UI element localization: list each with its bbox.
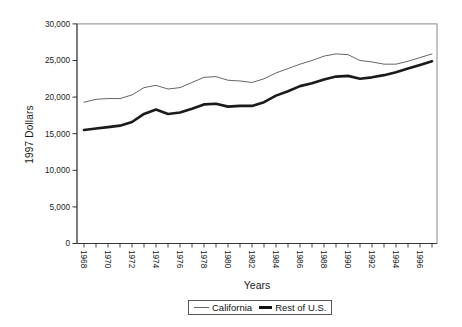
x-tick-label: 1976 [175, 250, 184, 269]
x-tick-label: 1974 [151, 250, 160, 269]
rest-of-us-line [84, 61, 432, 130]
x-tick-label: 1994 [391, 250, 400, 269]
x-tick-label: 1982 [247, 250, 256, 269]
legend-item-california: California [194, 303, 252, 313]
y-tick-label: 15,000 [45, 130, 70, 139]
legend-item-rest-of-us: Rest of U.S. [259, 303, 326, 313]
y-tick-label: 0 [65, 239, 70, 248]
y-tick-label: 5,000 [50, 203, 71, 212]
income-line-chart-figure: 05,00010,00015,00020,00025,00030,0001968… [0, 0, 462, 327]
y-tick-label: 20,000 [45, 93, 70, 102]
legend: California Rest of U.S. [188, 300, 332, 315]
rest-of-us-line-swatch [259, 306, 272, 309]
y-tick-label: 10,000 [45, 166, 70, 175]
x-tick-label: 1988 [319, 250, 328, 269]
x-tick-label: 1992 [367, 250, 376, 269]
x-tick-label: 1968 [79, 250, 88, 269]
x-tick-label: 1986 [295, 250, 304, 269]
california-line [84, 54, 432, 102]
y-tick-label: 25,000 [45, 56, 70, 65]
x-axis-title: Years [227, 279, 287, 291]
x-tick-label: 1970 [103, 250, 112, 269]
x-tick-label: 1972 [127, 250, 136, 269]
y-tick-label: 30,000 [45, 20, 70, 29]
legend-label-california: California [212, 303, 252, 313]
x-tick-label: 1980 [223, 250, 232, 269]
x-tick-label: 1978 [199, 250, 208, 269]
plot-border [77, 24, 437, 244]
y-axis-title: 1997 Dollars [24, 75, 35, 195]
x-tick-label: 1996 [415, 250, 424, 269]
x-tick-label: 1990 [343, 250, 352, 269]
legend-label-rest-of-us: Rest of U.S. [275, 303, 326, 313]
california-line-swatch [194, 307, 209, 308]
line-chart: 05,00010,00015,00020,00025,00030,0001968… [0, 0, 462, 327]
x-tick-label: 1984 [271, 250, 280, 269]
